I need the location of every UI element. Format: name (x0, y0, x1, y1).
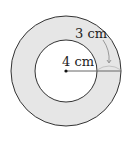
ring-width-label: 3 cm (75, 26, 107, 41)
annulus-diagram: 4 cm 3 cm (0, 0, 133, 144)
inner-radius-label: 4 cm (62, 54, 94, 69)
center-point (64, 69, 67, 72)
